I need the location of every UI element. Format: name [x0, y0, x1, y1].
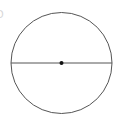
center-point — [60, 61, 64, 65]
circle-diagram — [0, 0, 125, 122]
